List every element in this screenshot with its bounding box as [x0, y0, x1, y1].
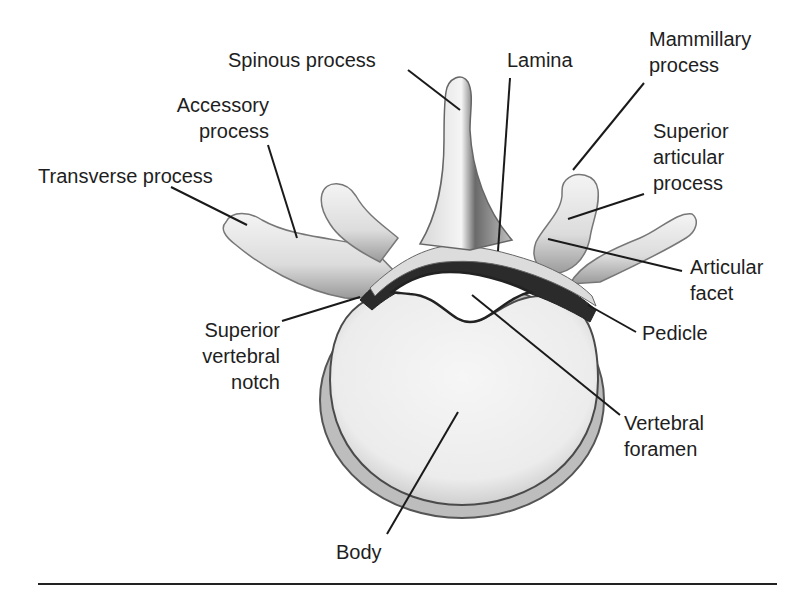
label-accessory-process: Accessory process [155, 92, 269, 144]
label-mammillary-process: Mammillary process [649, 26, 751, 78]
leader-lamina [498, 78, 510, 251]
vertebra-illustration [0, 0, 792, 592]
label-superior-articular-process: Superior articular process [653, 118, 729, 196]
leader-transverse-process [171, 187, 247, 225]
vertebra-diagram: Spinous process Lamina Mammillary proces… [0, 0, 792, 592]
label-pedicle: Pedicle [642, 320, 708, 346]
label-lamina: Lamina [507, 47, 573, 73]
leader-pedicle [588, 305, 636, 332]
label-body: Body [336, 539, 382, 565]
label-vertebral-foramen: Vertebral foramen [624, 410, 704, 462]
leader-accessory-process [268, 145, 297, 238]
label-spinous-process: Spinous process [228, 47, 376, 73]
label-articular-facet: Articular facet [690, 254, 763, 306]
leader-mammillary-process [573, 83, 644, 170]
label-transverse-process: Transverse process [38, 163, 213, 189]
label-superior-vertebral-notch: Superior vertebral notch [180, 317, 280, 395]
